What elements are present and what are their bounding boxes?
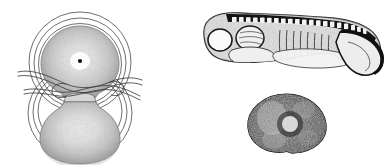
- eye-vesicle: [208, 29, 232, 51]
- illustration-plate: [0, 0, 391, 165]
- pale-center: [282, 116, 298, 132]
- nucleus-dot: [78, 59, 82, 63]
- constricted-egg-figure: [0, 0, 160, 165]
- gill-region: [229, 47, 276, 66]
- tailbud-larva-figure: [180, 2, 391, 87]
- pigmented-blastula-figure: [238, 88, 338, 160]
- lower-blastomere: [38, 100, 122, 165]
